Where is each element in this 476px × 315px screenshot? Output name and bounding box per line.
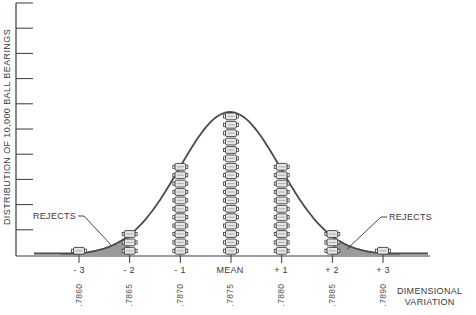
dimension-value: .7875 (225, 284, 235, 307)
dimension-value: .7890 (378, 284, 388, 307)
bearing-stack (122, 231, 137, 255)
bearing-stack (72, 247, 87, 254)
rejects-right-leader (347, 217, 387, 249)
rejects-label-right: REJECTS (389, 212, 432, 222)
dimension-value: .7880 (276, 284, 286, 307)
sigma-label-plus1: + 1 (274, 265, 288, 275)
sigma-label-minus3: - 3 (73, 265, 84, 275)
bearing-stack (274, 163, 289, 254)
rejects-left-leader (78, 216, 112, 246)
dimension-value: .7870 (175, 284, 185, 307)
bearing-stack (325, 231, 340, 255)
y-axis-ticks (16, 3, 33, 230)
sigma-label-plus3: + 3 (376, 265, 390, 275)
bearing-stack (224, 113, 239, 254)
x-axis-label-line2: VARIATION (397, 297, 462, 308)
bearing-stack (173, 163, 188, 254)
sigma-label-plus2: + 2 (325, 265, 339, 275)
dimension-value: .7860 (74, 284, 84, 307)
sigma-label-mean: MEAN (216, 265, 243, 275)
rejects-label-left: REJECTS (33, 211, 76, 221)
dimension-value: .7865 (124, 284, 134, 307)
bearing-stack (376, 247, 391, 254)
ball-bearing-stacks (72, 113, 391, 254)
sigma-label-minus2: - 2 (123, 265, 134, 275)
x-axis-label-line1: DIMENSIONAL (397, 286, 462, 297)
dimension-value: .7885 (327, 284, 337, 307)
y-axis-label: DISTRIBUTION OF 10,000 BALL BEARINGS (2, 2, 12, 252)
x-axis-label: DIMENSIONAL VARIATION (397, 286, 462, 308)
sigma-label-minus1: - 1 (174, 265, 185, 275)
reject-area-left (60, 235, 130, 255)
